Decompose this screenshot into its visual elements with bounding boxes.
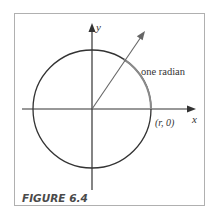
- unit-circle-diagram: y x one radian (r, 0) FIGURE 6.4: [0, 0, 216, 221]
- figure-caption: FIGURE 6.4: [22, 192, 88, 204]
- x-axis-label: x: [191, 113, 197, 125]
- point-label: (r, 0): [155, 117, 175, 129]
- arc-label: one radian: [141, 66, 186, 77]
- y-axis-label: y: [95, 21, 101, 33]
